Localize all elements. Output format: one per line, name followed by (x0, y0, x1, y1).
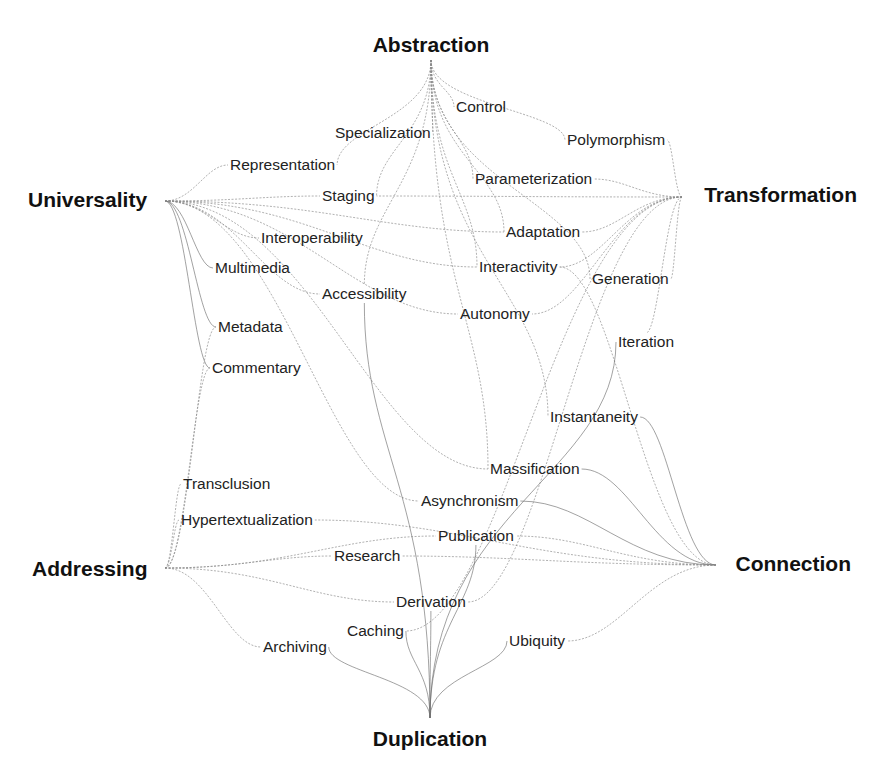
concept-network-diagram: Abstraction Universality Transformation … (0, 0, 888, 780)
edge-universality-commentary (165, 201, 210, 368)
leaf-polymorphism: Polymorphism (567, 131, 665, 148)
leaf-publication: Publication (438, 527, 514, 544)
edge-addressing-derivation (165, 568, 394, 602)
edge-transformation-parameterization (594, 179, 682, 197)
leaf-archiving: Archiving (263, 638, 327, 655)
leaf-staging: Staging (322, 187, 375, 204)
leaf-ubiquity: Ubiquity (509, 632, 565, 649)
edge-abstraction-accessibility (364, 60, 431, 285)
edge-connection-massification (582, 469, 716, 565)
edge-abstraction-interactivity (431, 60, 477, 267)
hub-addressing: Addressing (32, 557, 148, 580)
edge-abstraction-control (431, 60, 454, 107)
leaf-massification: Massification (490, 460, 580, 477)
edge-addressing-metadata (165, 327, 216, 568)
leaf-accessibility: Accessibility (322, 285, 407, 302)
edge-connection-asynchronism (520, 501, 716, 565)
hub-transformation: Transformation (704, 183, 857, 206)
leaf-instantaneity: Instantaneity (550, 408, 638, 425)
edge-addressing-research (165, 556, 332, 568)
leaf-transclusion: Transclusion (183, 475, 270, 492)
edge-duplication-accessibility (364, 303, 430, 718)
edge-connection-instantaneity (640, 417, 716, 565)
leaf-commentary: Commentary (212, 359, 301, 376)
leaf-autonomy: Autonomy (460, 305, 530, 322)
leaf-metadata: Metadata (218, 318, 283, 335)
edge-transformation-autonomy (532, 197, 682, 314)
leaf-adaptation: Adaptation (506, 223, 580, 240)
edge-universality-asynchronism (165, 201, 419, 501)
hub-connection: Connection (736, 552, 852, 575)
leaf-caching: Caching (347, 622, 404, 639)
edge-universality-multimedia (165, 201, 213, 268)
leaf-parameterization: Parameterization (475, 170, 592, 187)
leaf-representation: Representation (230, 156, 335, 173)
edge-connection-publication (516, 536, 716, 565)
hub-universality: Universality (28, 188, 147, 211)
leaf-research: Research (334, 547, 400, 564)
leaf-interoperability: Interoperability (261, 229, 363, 246)
hub-abstraction: Abstraction (373, 33, 490, 56)
leaf-iteration: Iteration (618, 333, 674, 350)
edge-addressing-commentary (165, 368, 210, 568)
edge-transformation-adaptation (582, 197, 682, 232)
edge-transformation-staging (377, 196, 682, 197)
edge-universality-metadata (165, 201, 216, 327)
edge-universality-staging (165, 196, 320, 201)
leaf-interactivity: Interactivity (479, 258, 558, 275)
edge-connection-ubiquity (567, 565, 716, 641)
edge-transformation-polymorphism (667, 140, 682, 197)
leaf-derivation: Derivation (396, 593, 466, 610)
edge-addressing-archiving (165, 568, 261, 647)
edge-universality-representation (165, 165, 228, 201)
leaf-multimedia: Multimedia (215, 259, 290, 276)
edge-universality-interoperability (165, 201, 259, 238)
edge-duplication-ubiquity (430, 641, 507, 718)
edge-transformation-generation (671, 197, 682, 279)
edge-abstraction-parameterization (431, 60, 473, 179)
edge-duplication-publication (430, 545, 476, 718)
edge-duplication-archiving (329, 647, 430, 718)
edge-transformation-iteration (646, 197, 682, 333)
leaf-specialization: Specialization (335, 124, 431, 141)
leaf-hypertextualization: Hypertextualization (181, 511, 313, 528)
leaf-control: Control (456, 98, 506, 115)
edge-universality-autonomy (165, 201, 458, 314)
hub-duplication: Duplication (373, 727, 487, 750)
edge-universality-adaptation (165, 201, 504, 232)
edge-addressing-transclusion (165, 484, 181, 568)
leaf-asynchronism: Asynchronism (421, 492, 518, 509)
edge-duplication-caching (406, 631, 430, 718)
leaf-generation: Generation (592, 270, 669, 287)
edge-abstraction-representation (337, 60, 431, 165)
